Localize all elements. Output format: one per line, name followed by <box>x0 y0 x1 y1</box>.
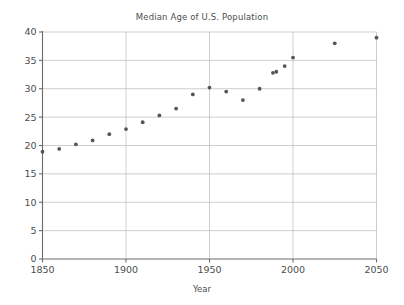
data-point <box>224 90 228 94</box>
x-tick-label: 1950 <box>197 264 221 275</box>
x-tick-label: 1900 <box>114 264 138 275</box>
data-point <box>191 93 195 97</box>
data-point <box>208 86 212 90</box>
data-point <box>291 56 295 60</box>
data-point <box>74 142 78 146</box>
x-tick-label: 1850 <box>30 264 54 275</box>
y-tick-label: 15 <box>24 168 36 179</box>
y-tick-label: 5 <box>30 225 36 236</box>
y-axis-tick-labels: 0510152025303540 <box>24 26 36 264</box>
data-point <box>158 114 162 118</box>
data-point <box>141 120 145 124</box>
x-tick-label: 2050 <box>364 264 388 275</box>
data-point <box>271 71 275 75</box>
data-point <box>41 150 45 154</box>
y-tick-label: 25 <box>24 112 36 123</box>
y-tick-label: 40 <box>24 26 36 37</box>
data-point <box>241 98 245 102</box>
y-tick-label: 20 <box>24 140 36 151</box>
data-point <box>57 147 61 151</box>
x-tick-label: 2000 <box>281 264 305 275</box>
x-axis-title: Year <box>192 284 212 294</box>
data-point <box>124 127 128 131</box>
data-point <box>283 64 287 68</box>
y-tick-label: 30 <box>24 83 36 94</box>
y-tick-label: 35 <box>24 55 36 66</box>
data-point <box>91 138 95 142</box>
data-point <box>274 70 278 74</box>
data-point <box>107 132 111 136</box>
data-point <box>174 107 178 111</box>
data-point <box>258 87 262 91</box>
data-point <box>333 41 337 45</box>
x-axis-tick-labels: 18501900195020002050 <box>30 264 388 275</box>
chart-container: Median Age of U.S. Population 0510152025… <box>0 0 404 305</box>
data-point <box>375 36 379 40</box>
y-tick-label: 10 <box>24 197 36 208</box>
scatter-plot: 0510152025303540 18501900195020002050 Ye… <box>0 0 404 305</box>
y-tick-label: 0 <box>30 253 36 264</box>
